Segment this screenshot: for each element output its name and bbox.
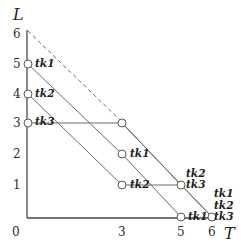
- annotation-corner-tk1: tk1: [214, 188, 233, 199]
- y-tick-4: 4: [13, 88, 21, 100]
- x-tick-5: 5: [177, 226, 185, 238]
- data-point-3-1: [118, 181, 126, 189]
- y-tick-6: 6: [13, 28, 21, 40]
- data-point-5-0: [177, 213, 185, 221]
- x-tick-0: 0: [12, 226, 20, 238]
- annotation-origin-tk1: tk1: [35, 58, 54, 69]
- y-tick-3: 3: [13, 117, 21, 129]
- data-point-3-2: [118, 150, 126, 158]
- x-tick-3: 3: [118, 226, 126, 238]
- y-tick-5: 5: [13, 58, 21, 70]
- x-axis-title: T: [224, 226, 235, 242]
- y-axis-title: L: [13, 7, 24, 23]
- annotation-mid-tk2: tk2: [130, 179, 149, 190]
- y-tick-2: 2: [13, 148, 21, 160]
- annotation-origin-tk3: tk3: [35, 116, 54, 127]
- y-tick-1: 1: [13, 179, 21, 191]
- annotation-right-tk3: tk3: [186, 179, 205, 190]
- annotation-mid-tk1: tk1: [130, 148, 149, 159]
- annotation-corner-tk3: tk3: [214, 211, 233, 222]
- chart-figure: L T 6 5 4 3 2 1 0 3 5 6 tk1 tk2 tk3 tk1 …: [0, 0, 241, 248]
- data-point-3-3: [118, 119, 126, 127]
- data-point-0-3: [24, 119, 32, 127]
- annotation-bottom-tk1: tk1: [188, 211, 207, 222]
- series-line-tk3: [28, 123, 212, 217]
- x-tick-6: 6: [208, 226, 216, 238]
- data-point-0-5: [24, 60, 32, 68]
- annotation-origin-tk2: tk2: [35, 88, 54, 99]
- data-point-0-4: [24, 90, 32, 98]
- series-line-tk2: [28, 94, 181, 185]
- data-point-5-1: [177, 181, 185, 189]
